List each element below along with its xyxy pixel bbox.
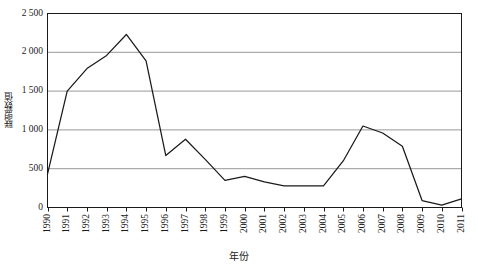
x-axis-ticks [49, 208, 463, 212]
plot-border [48, 14, 462, 208]
plot-area [0, 0, 478, 271]
x-axis-title-label: 年份 [229, 251, 249, 262]
data-series-line [48, 34, 462, 205]
x-axis-title: 年份 [0, 252, 478, 262]
line-chart-figure: 联盟数值 05001 0001 5002 0002 500 1990199119… [0, 0, 478, 271]
gridlines [48, 14, 462, 169]
